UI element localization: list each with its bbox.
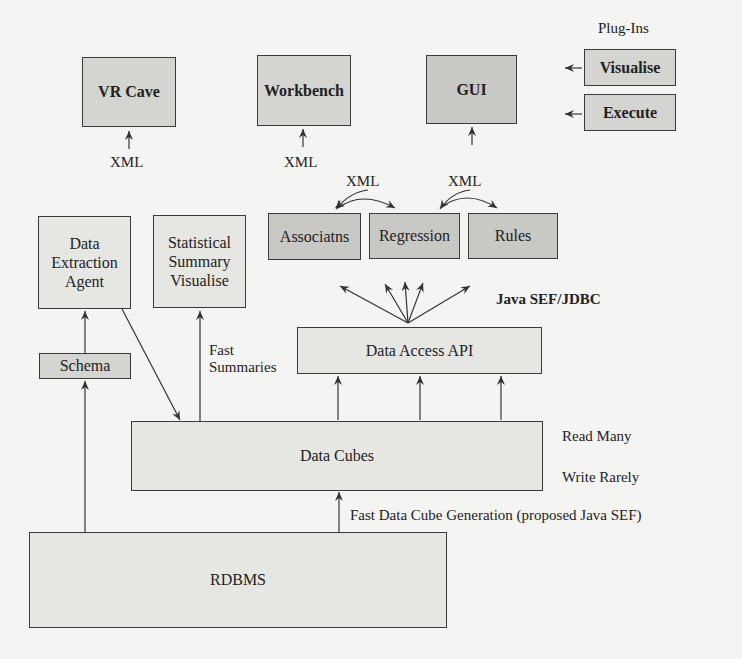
xml-label-vr-cave: XML: [110, 154, 143, 171]
statistical-summary-visualise-box: Statistical Summary Visualise: [153, 215, 246, 308]
data-cubes-label: Data Cubes: [300, 446, 374, 465]
stats-label-line-3: Visualise: [170, 271, 229, 290]
xml-label-right: XML: [448, 173, 481, 190]
schema-label: Schema: [60, 356, 111, 375]
rules-label: Rules: [495, 226, 531, 245]
data-access-api-box: Data Access API: [297, 327, 542, 374]
agent-label-line-3: Agent: [65, 272, 104, 291]
java-sef-jdbc-label: Java SEF/JDBC: [496, 291, 601, 308]
visualise-plugin-box: Visualise: [584, 49, 676, 86]
schema-box: Schema: [39, 353, 131, 379]
workbench-label: Workbench: [264, 81, 344, 100]
rules-box: Rules: [468, 213, 558, 259]
gui-box: GUI: [426, 55, 517, 124]
data-cubes-box: Data Cubes: [131, 421, 543, 491]
data-access-api-label: Data Access API: [366, 341, 474, 360]
xml-label-left: XML: [346, 173, 379, 190]
gui-label: GUI: [456, 80, 486, 99]
stats-label-line-2: Summary: [168, 252, 230, 271]
rdbms-box: RDBMS: [29, 532, 447, 628]
workbench-box: Workbench: [257, 55, 351, 126]
execute-label: Execute: [603, 103, 657, 122]
data-extraction-agent-box: Data Extraction Agent: [38, 216, 131, 309]
fast-summaries-line-1: Fast: [209, 342, 277, 359]
execute-plugin-box: Execute: [584, 94, 676, 131]
read-many-label: Read Many: [562, 428, 632, 445]
write-rarely-label: Write Rarely: [562, 469, 639, 486]
fast-summaries-line-2: Summaries: [209, 359, 277, 376]
vr-cave-box: VR Cave: [82, 57, 176, 127]
regression-box: Regression: [369, 213, 460, 259]
associations-label: Associatns: [280, 227, 349, 246]
fast-summaries-label: Fast Summaries: [209, 342, 277, 377]
xml-label-workbench: XML: [284, 154, 317, 171]
regression-label: Regression: [379, 226, 450, 245]
agent-label-line-2: Extraction: [51, 253, 118, 272]
vr-cave-label: VR Cave: [98, 82, 160, 101]
plugins-label: Plug-Ins: [598, 20, 649, 37]
fast-data-cube-generation-label: Fast Data Cube Generation (proposed Java…: [350, 507, 642, 524]
associations-box: Associatns: [268, 213, 361, 260]
stats-label-line-1: Statistical: [168, 233, 231, 252]
visualise-label: Visualise: [600, 58, 661, 77]
rdbms-label: RDBMS: [210, 570, 266, 589]
agent-label-line-1: Data: [69, 234, 99, 253]
